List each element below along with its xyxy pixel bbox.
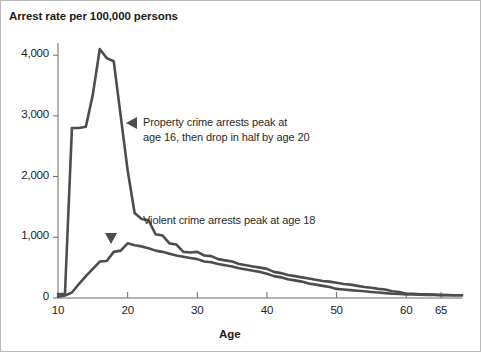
x-tick-label: 40 xyxy=(250,304,284,316)
x-tick-label: 30 xyxy=(180,304,214,316)
x-tick-label: 60 xyxy=(389,304,423,316)
x-tick-label: 50 xyxy=(320,304,354,316)
property-crime-line xyxy=(58,49,462,295)
x-tick-label: 65 xyxy=(424,304,458,316)
chart-annotation-markers xyxy=(105,117,137,244)
y-tick-label: 1,000 xyxy=(5,229,49,241)
x-tick-label: 10 xyxy=(41,304,75,316)
y-tick-label: 4,000 xyxy=(5,47,49,59)
chart-figure: Arrest rate per 100,000 persons 01,0002,… xyxy=(0,0,481,352)
x-tick-label: 20 xyxy=(111,304,145,316)
y-tick-label: 3,000 xyxy=(5,108,49,120)
violent-crime-line xyxy=(58,243,462,296)
chart-plot-area xyxy=(1,1,481,352)
violent-annotation-arrow-icon xyxy=(105,233,117,244)
chart-series xyxy=(58,49,462,297)
y-tick-label: 2,000 xyxy=(5,169,49,181)
x-axis-label: Age xyxy=(219,328,240,340)
violent-crime-annotation: Violent crime arrests peak at age 18 xyxy=(143,213,315,228)
chart-axes xyxy=(53,43,462,298)
property-crime-annotation: Property crime arrests peak at age 16, t… xyxy=(143,115,310,144)
y-tick-label: 0 xyxy=(5,290,49,302)
property-annotation-arrow-icon xyxy=(126,117,137,129)
